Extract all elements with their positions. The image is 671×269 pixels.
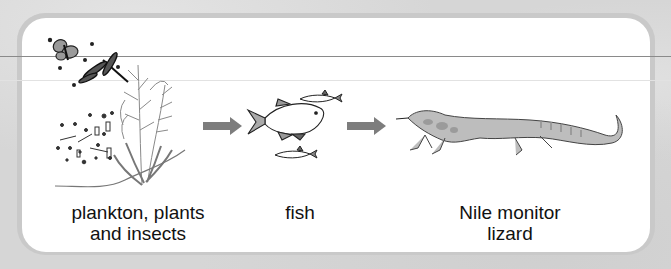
lizard-label: Nile monitor lizard — [430, 202, 590, 244]
fish-label: fish — [250, 202, 350, 223]
producers-label: plankton, plants and insects — [38, 202, 238, 244]
